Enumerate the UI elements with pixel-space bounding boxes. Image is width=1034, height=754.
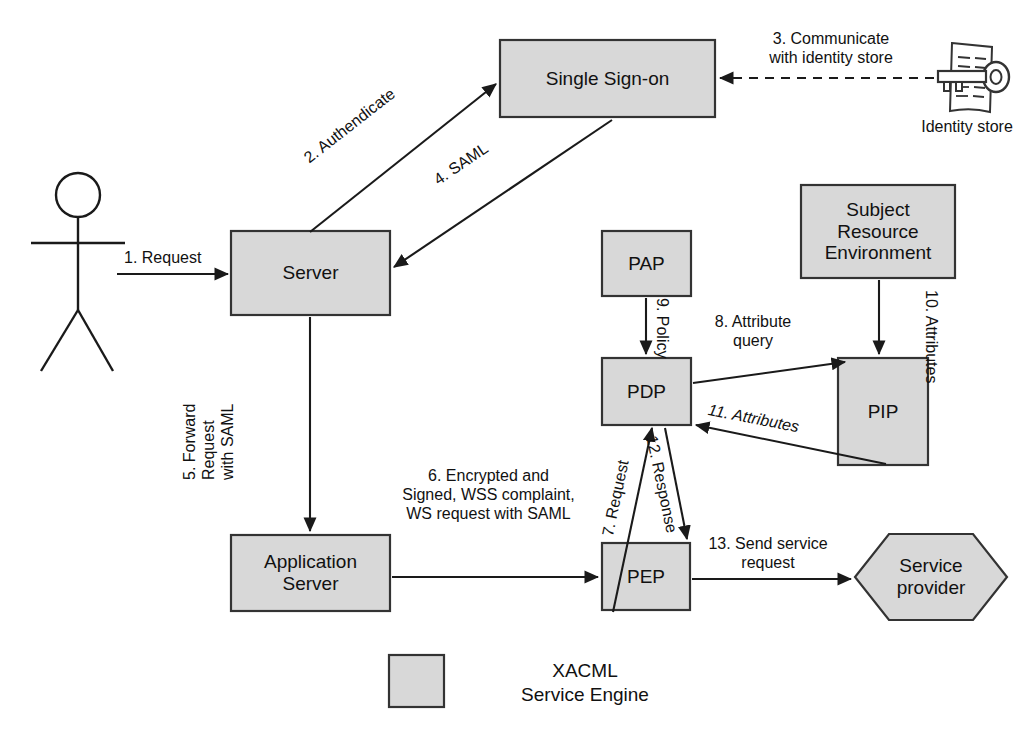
- edge-label-3-communicate: 3. Communicate with identity store: [748, 29, 914, 67]
- node-server[interactable]: [231, 231, 390, 315]
- edge-label-10-attributes: 10. Attributes: [922, 290, 941, 383]
- identity-store-caption: Identity store: [900, 118, 1034, 136]
- edge-label-8-attribute-query: 8. Attribute query: [700, 312, 806, 350]
- edge-label-1-request: 1. Request: [124, 248, 201, 267]
- node-single-sign-on[interactable]: [500, 40, 715, 117]
- xacml-service-engine-swatch: [389, 655, 444, 707]
- node-pap[interactable]: [602, 231, 691, 296]
- edge-label-5-forward-request: 5. Forward Request with SAML: [180, 404, 238, 480]
- edge-label-9-policy: 9. Policy: [653, 298, 672, 358]
- identity-store-icon: [938, 43, 1009, 112]
- diagram-canvas: Single Sign-on Server Application Server…: [0, 0, 1034, 754]
- edge-8-attribute-query: [693, 362, 845, 383]
- node-service-provider[interactable]: [855, 534, 1007, 620]
- node-pip[interactable]: [838, 358, 928, 465]
- node-subject-resource-environment[interactable]: [801, 185, 955, 278]
- user-actor-figure: [31, 173, 125, 371]
- legend-label: XACML Service Engine: [470, 659, 700, 707]
- node-pdp[interactable]: [602, 358, 691, 425]
- edge-label-6-encrypted-signed: 6. Encrypted and Signed, WSS complaint, …: [376, 466, 601, 524]
- edge-label-13-send-service-request: 13. Send service request: [698, 534, 838, 572]
- node-application-server[interactable]: [231, 535, 390, 611]
- diagram-vector-layer: [0, 0, 1034, 754]
- edge-4-saml: [394, 120, 612, 267]
